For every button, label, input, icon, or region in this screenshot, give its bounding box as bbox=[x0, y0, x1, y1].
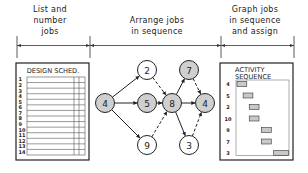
activity-label: 5 bbox=[226, 93, 230, 99]
network-node: 8 bbox=[163, 94, 182, 113]
diagram-canvas: List and number jobs Arrange jobs in seq… bbox=[0, 0, 308, 173]
activity-bar bbox=[237, 82, 247, 87]
design-schedule: DESIGN SCHED. 1234567891011121314 bbox=[16, 63, 89, 160]
arrowhead bbox=[221, 44, 225, 47]
network-node: 2 bbox=[138, 61, 157, 80]
header-line: Arrange jobs bbox=[130, 16, 184, 25]
arrowhead bbox=[17, 44, 21, 47]
schedule-title: DESIGN SCHED. bbox=[27, 67, 80, 75]
header-line: Graph jobs bbox=[232, 5, 278, 14]
network-edge bbox=[176, 112, 186, 136]
activity-bar bbox=[249, 105, 259, 110]
network-edge bbox=[192, 112, 201, 136]
activity-bar bbox=[261, 128, 271, 133]
node-label: 8 bbox=[169, 99, 175, 109]
header-line: in sequence bbox=[131, 27, 183, 36]
header-line: number bbox=[33, 16, 66, 25]
network-edges bbox=[112, 76, 202, 138]
activity-bar bbox=[243, 93, 253, 98]
dimension-lines bbox=[17, 36, 294, 58]
header-line: in sequence bbox=[229, 16, 281, 25]
header-graph-jobs: Graph jobs in sequence and assign bbox=[229, 5, 281, 36]
activity-bar bbox=[274, 151, 289, 156]
arrowhead bbox=[90, 44, 94, 47]
network-edge bbox=[152, 112, 167, 137]
activity-title-line: SEQUENCE bbox=[235, 73, 271, 81]
activity-label: 7 bbox=[226, 139, 230, 145]
network-edge bbox=[193, 79, 200, 94]
activity-label: 9 bbox=[226, 127, 230, 133]
node-label: 9 bbox=[144, 141, 150, 151]
activity-sequence: ACTIVITY SEQUENCE 45210973 bbox=[220, 63, 293, 160]
header-arrange-jobs: Arrange jobs in sequence bbox=[130, 16, 184, 36]
activity-label: 10 bbox=[225, 116, 232, 122]
node-label: 2 bbox=[144, 66, 150, 76]
activity-label: 2 bbox=[226, 104, 230, 110]
activity-label: 4 bbox=[226, 81, 230, 87]
header-line: and assign bbox=[232, 27, 278, 36]
network-node: 9 bbox=[138, 136, 157, 155]
network-edge bbox=[112, 76, 139, 97]
network-nodes: 42598734 bbox=[96, 61, 215, 155]
activity-label: 3 bbox=[226, 150, 230, 156]
header-list-jobs: List and number jobs bbox=[33, 5, 67, 36]
network-edge bbox=[153, 78, 166, 95]
header-line: List and bbox=[33, 5, 67, 14]
network-node: 3 bbox=[180, 136, 199, 155]
node-label: 4 bbox=[202, 99, 208, 109]
arrowhead bbox=[86, 44, 90, 47]
schedule-row-number: 14 bbox=[19, 149, 26, 155]
network-node: 4 bbox=[96, 94, 115, 113]
node-label: 3 bbox=[186, 141, 192, 151]
activity-bar bbox=[249, 116, 259, 121]
network-node: 7 bbox=[180, 61, 199, 80]
arrowhead bbox=[217, 44, 221, 47]
network-node: 5 bbox=[138, 94, 157, 113]
node-label: 4 bbox=[102, 99, 108, 109]
arrowhead bbox=[290, 44, 294, 47]
precedence-network: 42598734 bbox=[96, 61, 215, 155]
network-edge bbox=[176, 79, 184, 95]
activity-bar bbox=[261, 139, 271, 144]
header-line: jobs bbox=[40, 27, 59, 36]
network-edge bbox=[112, 110, 140, 138]
network-node: 4 bbox=[196, 94, 215, 113]
node-label: 5 bbox=[144, 99, 150, 109]
node-label: 7 bbox=[186, 66, 192, 76]
